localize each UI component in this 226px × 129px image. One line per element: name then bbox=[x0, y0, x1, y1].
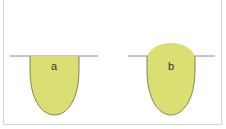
label-b: b bbox=[161, 60, 181, 72]
panel-b bbox=[128, 43, 215, 115]
diagram-canvas bbox=[0, 0, 226, 129]
label-a: a bbox=[44, 60, 64, 72]
well-fill-b bbox=[147, 43, 195, 115]
